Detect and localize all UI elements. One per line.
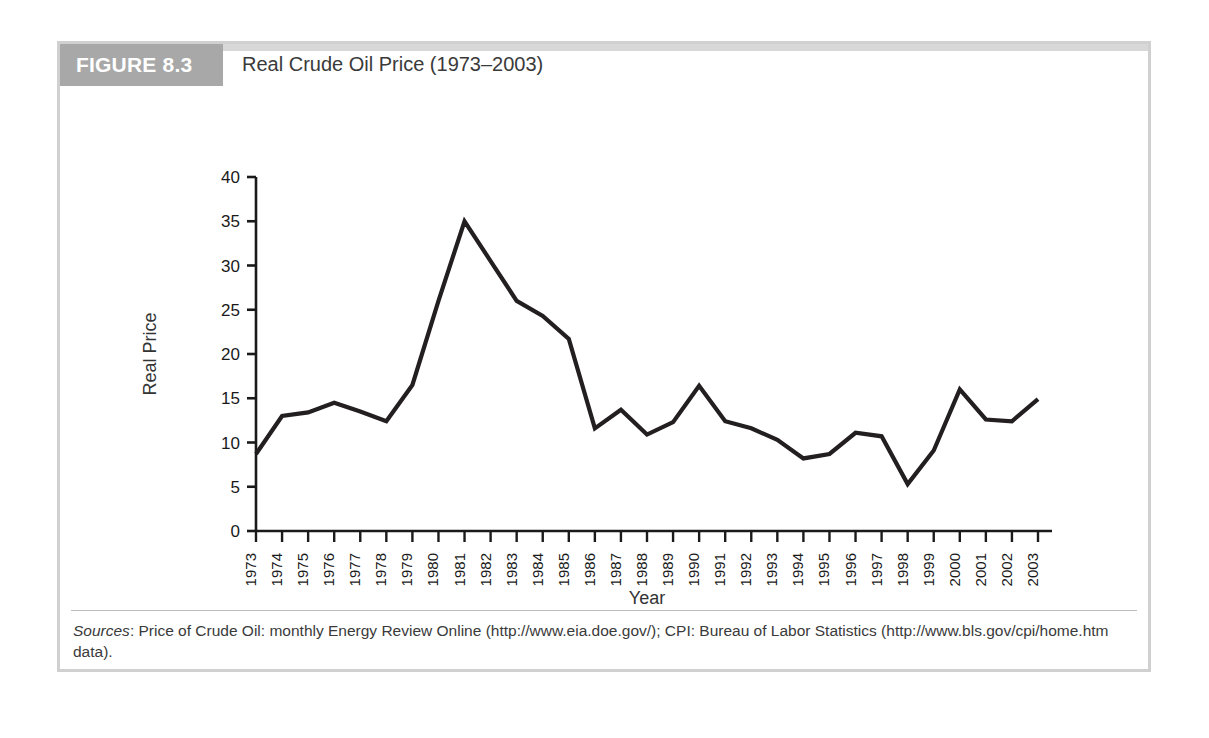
x-tick-label: 2003 — [1024, 553, 1041, 586]
y-tick-labels: 0510152025303540 — [221, 168, 240, 541]
figure-number-band: FIGURE 8.3 — [60, 44, 223, 86]
x-tick-label: 1982 — [477, 553, 494, 586]
x-tick-label: 1987 — [607, 553, 624, 586]
x-tick-label: 1974 — [268, 553, 285, 586]
x-tick-label: 1981 — [451, 553, 468, 586]
x-tick-label: 1976 — [320, 553, 337, 586]
x-axis — [256, 531, 1052, 542]
x-tick-label: 1983 — [503, 553, 520, 586]
x-tick-label: 1986 — [581, 553, 598, 586]
x-tick-label: 1993 — [763, 553, 780, 586]
source-text: : Price of Crude Oil: monthly Energy Rev… — [73, 622, 1109, 660]
x-tick-label: 1979 — [398, 553, 415, 586]
y-axis-title: Real Price — [140, 312, 160, 395]
y-tick-label: 5 — [231, 478, 240, 497]
y-tick-label: 10 — [221, 434, 240, 453]
x-tick-label: 1975 — [294, 553, 311, 586]
x-tick-label: 1999 — [920, 553, 937, 586]
figure-number-label: FIGURE 8.3 — [76, 53, 192, 77]
y-axis — [247, 177, 256, 531]
x-tick-label: 1997 — [868, 553, 885, 586]
header-rule — [223, 44, 1148, 51]
x-tick-label: 1992 — [737, 553, 754, 586]
x-tick-label: 1994 — [789, 553, 806, 586]
x-tick-label: 1996 — [842, 553, 859, 586]
x-tick-label: 2002 — [998, 553, 1015, 586]
page-title: Real Crude Oil Price (1973–2003) — [242, 53, 543, 76]
y-tick-label: 20 — [221, 345, 240, 364]
x-tick-label: 1978 — [372, 553, 389, 586]
line-chart-svg: 1973197419751976197719781979198019811982… — [60, 86, 1148, 616]
x-tick-label: 2000 — [946, 553, 963, 586]
x-axis-title: Year — [629, 588, 665, 608]
x-tick-label: 1977 — [346, 553, 363, 586]
x-tick-label: 1995 — [815, 553, 832, 586]
y-tick-label: 35 — [221, 212, 240, 231]
x-tick-label: 1988 — [633, 553, 650, 586]
x-tick-label: 1973 — [242, 553, 259, 586]
figure-header: FIGURE 8.3 Real Crude Oil Price (1973–20… — [60, 44, 1148, 86]
x-tick-label: 1980 — [424, 553, 441, 586]
figure-frame: FIGURE 8.3 Real Crude Oil Price (1973–20… — [57, 41, 1151, 672]
x-tick-label: 1984 — [529, 553, 546, 586]
x-tick-label: 1998 — [894, 553, 911, 586]
source-divider — [71, 610, 1137, 611]
source-label: Sources — [73, 622, 130, 639]
x-tick-labels: 1973197419751976197719781979198019811982… — [242, 553, 1041, 586]
source-note: Sources: Price of Crude Oil: monthly Ene… — [73, 620, 1135, 662]
y-tick-label: 15 — [221, 389, 240, 408]
y-tick-label: 25 — [221, 301, 240, 320]
x-tick-label: 1990 — [685, 553, 702, 586]
y-tick-label: 30 — [221, 257, 240, 276]
y-tick-label: 40 — [221, 168, 240, 187]
x-tick-label: 1991 — [711, 553, 728, 586]
x-tick-label: 1989 — [659, 553, 676, 586]
chart-plot-area: 1973197419751976197719781979198019811982… — [60, 86, 1148, 616]
data-series-line — [256, 221, 1038, 484]
x-tick-label: 1985 — [555, 553, 572, 586]
y-tick-label: 0 — [231, 522, 240, 541]
x-tick-label: 2001 — [972, 553, 989, 586]
